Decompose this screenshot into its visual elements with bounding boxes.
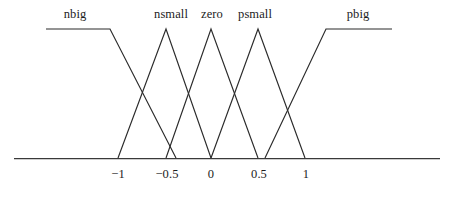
set-label-pbig: pbig: [347, 8, 370, 21]
curve-nsmall: [118, 29, 211, 158]
x-tick-label-pos-one: 1: [303, 168, 309, 181]
set-label-psmall: psmall: [238, 8, 272, 21]
x-tick-label-pos-half: 0.5: [251, 168, 267, 181]
curve-pbig: [265, 29, 392, 158]
x-tick-label-neg-half: −0.5: [155, 168, 178, 181]
membership-plot: [0, 0, 452, 203]
curve-zero: [166, 29, 258, 158]
x-tick-label-zero: 0: [208, 168, 214, 181]
curve-nbig: [46, 29, 176, 158]
set-label-nbig: nbig: [64, 8, 87, 21]
x-tick-label-neg-one: −1: [111, 168, 125, 181]
set-label-zero: zero: [201, 8, 223, 21]
fuzzy-membership-figure: nbig nsmall zero psmall pbig −1 −0.5 0 0…: [0, 0, 452, 203]
set-label-nsmall: nsmall: [154, 8, 188, 21]
curve-psmall: [211, 29, 305, 158]
